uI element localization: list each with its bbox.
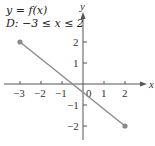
x-tick-label: 1 xyxy=(101,87,107,99)
end-point xyxy=(122,123,127,128)
y-tick-label: 2 xyxy=(73,36,79,48)
y-tick-label: −1 xyxy=(67,99,79,111)
graph: x y −3 −2 −1 0 1 2 2 1 −1 −2 xyxy=(0,0,155,146)
x-tick-label: −3 xyxy=(13,87,25,99)
y-axis-label: y xyxy=(79,0,85,12)
x-tick-label: −2 xyxy=(34,87,46,99)
start-point xyxy=(17,39,22,44)
y-axis-arrow-icon xyxy=(81,12,86,19)
x-tick-label: 2 xyxy=(122,87,128,99)
y-tick-label: 1 xyxy=(73,57,79,69)
y-tick-label: −2 xyxy=(67,120,79,132)
x-axis-label: x xyxy=(148,78,154,90)
x-axis-arrow-icon xyxy=(140,82,147,87)
x-tick-label: −1 xyxy=(55,87,67,99)
